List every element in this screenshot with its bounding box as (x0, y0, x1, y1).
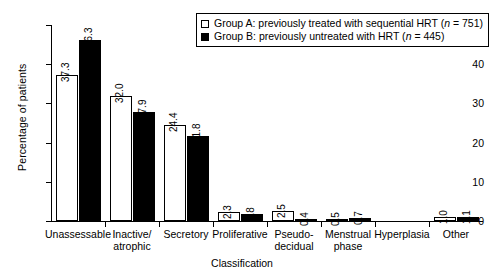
y-axis-tick-label: 20 (440, 138, 484, 149)
chart-legend: Group A: previously treated with sequent… (196, 13, 489, 47)
bar-value-label: 0.5 (331, 212, 341, 226)
legend-swatch-black (201, 33, 209, 41)
x-axis-tick (213, 222, 214, 227)
bar-value-label: 21.8 (192, 123, 202, 142)
bar (164, 125, 186, 221)
bar-value-label: 2.5 (277, 204, 287, 218)
x-axis-category-label: Other (423, 229, 489, 241)
x-axis-tick (105, 222, 106, 227)
legend-swatch-white (201, 20, 209, 28)
bar-value-label: 1.8 (246, 207, 256, 221)
legend-item-label: Group A: previously treated with sequent… (214, 18, 483, 29)
bar-value-label: 32.0 (115, 83, 125, 102)
legend-item-label: Group B: previously untreated with HRT (… (214, 31, 444, 42)
y-axis-tick-label: 40 (440, 59, 484, 70)
bar-value-label: 2.3 (223, 205, 233, 219)
y-axis-tick (46, 25, 51, 26)
y-axis-tick (46, 103, 51, 104)
bar-value-label: 0.7 (354, 211, 364, 225)
x-axis-tick (321, 222, 322, 227)
x-axis-tick (375, 222, 376, 227)
y-axis-tick (46, 221, 51, 222)
y-axis-line (51, 25, 52, 221)
x-axis-tick (159, 222, 160, 227)
bar-value-label: 46.3 (84, 27, 94, 46)
bar (56, 75, 78, 221)
bar-value-label: 1.1 (462, 210, 472, 224)
y-axis-title: Percentage of patients (17, 17, 28, 217)
bar-value-label: 27.9 (138, 99, 148, 118)
legend-item: Group A: previously treated with sequent… (201, 17, 483, 30)
y-axis-tick (46, 64, 51, 65)
bar (110, 96, 132, 221)
x-axis-tick (267, 222, 268, 227)
bar-value-label: 24.4 (169, 113, 179, 132)
bar (187, 136, 209, 221)
y-axis-tick (46, 182, 51, 183)
x-axis-title: Classification (0, 258, 484, 269)
y-axis-tick-label: 30 (440, 98, 484, 109)
y-axis-tick-label: 10 (440, 177, 484, 188)
bar (133, 112, 155, 221)
legend-item: Group B: previously untreated with HRT (… (201, 30, 483, 43)
bar-value-label: 37.3 (61, 62, 71, 81)
bar (79, 40, 101, 221)
x-axis-tick (429, 222, 430, 227)
y-axis-tick (46, 143, 51, 144)
bar-value-label: 1.0 (439, 210, 449, 224)
bar-value-label: 0.4 (300, 213, 310, 227)
